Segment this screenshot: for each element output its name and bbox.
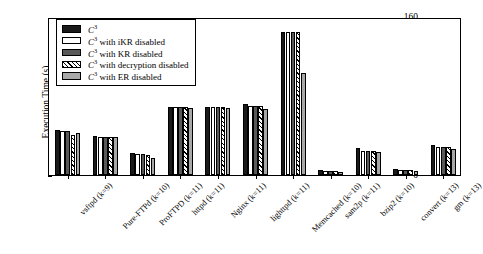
bar [183, 107, 188, 175]
bar-group [424, 19, 462, 175]
x-tick-mark [256, 175, 257, 179]
bar [258, 106, 263, 175]
bar-group [349, 19, 387, 175]
legend-swatch [62, 49, 81, 57]
x-tick-mark [180, 175, 181, 179]
legend-swatch [62, 72, 81, 80]
bar [65, 131, 70, 175]
x-tick-mark [68, 175, 69, 179]
bar-group [237, 19, 275, 175]
bar [338, 172, 343, 175]
x-tick-label: Nginx (k=11) [229, 181, 268, 220]
bar [151, 158, 156, 175]
bar [76, 133, 81, 175]
bar [253, 106, 258, 175]
bar [103, 137, 108, 176]
bar [60, 131, 65, 175]
bar [376, 152, 381, 175]
bar [361, 151, 366, 175]
legend: C3C3 with iKR disabledC3 with KR disable… [56, 19, 196, 86]
bar-group [312, 19, 350, 175]
x-tick-label: vsftpd (k=9) [78, 181, 114, 217]
x-tick-mark [218, 175, 219, 179]
bar [108, 137, 113, 176]
bar [291, 32, 296, 175]
bar [393, 169, 398, 175]
legend-label: C3 with iKR disabled [88, 35, 165, 47]
x-tick-mark [331, 175, 332, 179]
bar [366, 151, 371, 175]
bar [178, 107, 183, 175]
legend-swatch [62, 25, 81, 33]
bar [286, 32, 291, 175]
bar [441, 147, 446, 175]
bar [221, 107, 226, 175]
bar [168, 107, 173, 175]
bar [446, 147, 451, 175]
bar [113, 137, 118, 175]
bar [173, 107, 178, 175]
bar [436, 147, 441, 175]
bar [301, 73, 306, 175]
bar [333, 171, 338, 175]
legend-item: C3 [62, 23, 188, 35]
bar [356, 148, 361, 175]
y-tick-mark [48, 176, 52, 177]
x-tick-mark [105, 175, 106, 179]
x-tick-mark [293, 175, 294, 179]
bar [141, 154, 146, 175]
legend-item: C3 with ER disabled [62, 70, 188, 82]
legend-label: C3 with ER disabled [88, 70, 161, 82]
bar [98, 137, 103, 176]
legend-label: C3 with decryption disabled [88, 58, 188, 70]
bar [55, 130, 60, 175]
legend-swatch [62, 61, 81, 69]
legend-item: C3 with iKR disabled [62, 35, 188, 47]
bar [188, 108, 193, 175]
bar [414, 171, 419, 175]
legend-item: C3 with decryption disabled [62, 58, 188, 70]
bar [93, 136, 98, 176]
bar [451, 149, 456, 175]
x-tick-mark [368, 175, 369, 179]
bar [130, 153, 135, 175]
bar [243, 104, 248, 175]
bar [281, 32, 286, 175]
bar-group [199, 19, 237, 175]
bar [205, 107, 210, 175]
bar [216, 107, 221, 175]
bar [211, 107, 216, 175]
bar [323, 171, 328, 175]
bar-group [387, 19, 425, 175]
legend-label: C3 [88, 23, 97, 35]
bar [431, 145, 436, 175]
bar [371, 151, 376, 175]
legend-swatch [62, 37, 81, 45]
bar [296, 32, 301, 175]
x-tick-mark [143, 175, 144, 179]
bar [226, 108, 231, 175]
x-tick-mark [443, 175, 444, 179]
bar [408, 170, 413, 175]
bar [398, 170, 403, 175]
x-tick-label: bzip2 (k=10) [379, 181, 416, 218]
bar [263, 109, 268, 175]
legend-item: C3 with KR disabled [62, 47, 188, 59]
bar-group [274, 19, 312, 175]
bar [248, 106, 253, 175]
x-tick-label: lighttpd (k=11) [268, 181, 310, 223]
bar [71, 135, 76, 175]
bar [146, 155, 151, 175]
legend-label: C3 with KR disabled [88, 47, 162, 59]
x-tick-mark [406, 175, 407, 179]
bar [135, 154, 140, 175]
bar [318, 170, 323, 175]
